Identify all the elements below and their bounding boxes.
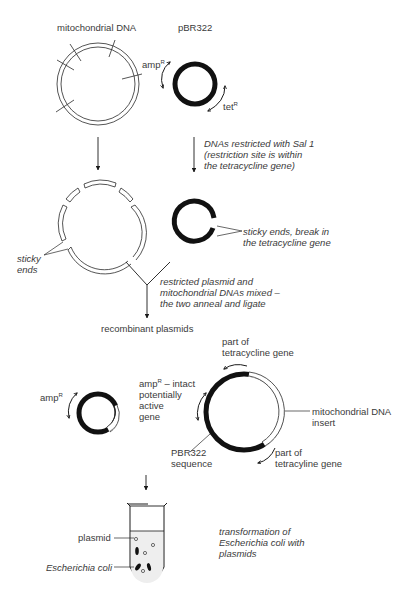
ligation-caption: restricted plasmid and mitochondrial DNA… bbox=[160, 276, 280, 309]
large-recombinant-plasmid bbox=[206, 372, 284, 450]
sticky-ends-line2: ends bbox=[17, 264, 41, 275]
amp-intact-line1: ampR – intact bbox=[139, 378, 195, 389]
test-tube bbox=[127, 503, 167, 583]
small-ampR-sup: R bbox=[58, 392, 62, 398]
pbr-seq-label: PBR322 sequence bbox=[171, 447, 212, 469]
tet-part-top-arrow-icon bbox=[224, 365, 247, 369]
tet-part-bottom-arrow-icon bbox=[258, 448, 275, 463]
amp-intact-label: ampR – intact potentially active gene bbox=[139, 378, 195, 422]
pbr-seq-line2: sequence bbox=[171, 458, 212, 469]
ampR-text: amp bbox=[142, 59, 160, 70]
tetR-sup: R bbox=[234, 101, 238, 107]
tet-part-bottom-line2: tetracyline gene bbox=[275, 458, 342, 469]
amp-intact-line4: gene bbox=[139, 411, 195, 422]
tet-part-top-line1: part of bbox=[222, 336, 294, 347]
sticky-ends-pointer bbox=[44, 242, 68, 255]
ligation-caption-line2: mitochondrial DNAs mixed – bbox=[160, 287, 280, 298]
small-recombinant-plasmid bbox=[79, 394, 119, 432]
small-ampR-text: amp bbox=[40, 392, 58, 403]
plasmid-break-line2: the tetracycline gene bbox=[243, 237, 331, 248]
ecoli-label: Escherichia coli bbox=[46, 562, 112, 573]
transformation-caption: transformation of Escherichia coli with … bbox=[219, 526, 305, 559]
restriction-caption: DNAs restricted with Sal 1 (restriction … bbox=[204, 138, 314, 171]
plasmid-label: plasmid bbox=[78, 532, 111, 543]
plasmid-break-line1: sticky ends, break in bbox=[243, 226, 331, 237]
transformation-caption-line2: Escherichia coli with bbox=[219, 537, 305, 548]
ampR-sup: R bbox=[160, 59, 164, 65]
mito-dna-circle bbox=[56, 40, 142, 125]
insert-line2: insert bbox=[312, 417, 391, 428]
recombinant-plasmids-label: recombinant plasmids bbox=[101, 323, 193, 334]
tet-part-bottom-line1: part of bbox=[275, 447, 342, 458]
restricted-pbr322 bbox=[174, 201, 214, 241]
restriction-caption-line1: DNAs restricted with Sal 1 bbox=[204, 138, 314, 149]
sticky-ends-line1: sticky bbox=[17, 253, 41, 264]
amp-intact-line2: potentially bbox=[139, 389, 195, 400]
plasmid-break-pointer bbox=[217, 226, 242, 236]
amp-intact-line3: active bbox=[139, 400, 195, 411]
restriction-caption-line3: the tetracycline gene) bbox=[204, 160, 314, 171]
insert-label: mitochondrial DNA insert bbox=[312, 406, 391, 428]
tet-part-bottom-label: part of tetracyline gene bbox=[275, 447, 342, 469]
transformation-caption-line3: plasmids bbox=[219, 548, 305, 559]
tet-part-top-label: part of tetracycline gene bbox=[222, 336, 294, 358]
tet-part-top-line2: tetracycline gene bbox=[222, 347, 294, 358]
insert-line1: mitochondrial DNA bbox=[312, 406, 391, 417]
small-ampR-arrow-icon bbox=[68, 393, 77, 418]
pbr322-plasmid bbox=[175, 64, 215, 104]
plasmid-break-label: sticky ends, break in the tetracycline g… bbox=[243, 226, 331, 248]
tetR-text: tet bbox=[223, 101, 234, 112]
sticky-ends-label: sticky ends bbox=[17, 253, 41, 275]
ligation-caption-line1: restricted plasmid and bbox=[160, 276, 280, 287]
tetR-label: tetR bbox=[223, 101, 238, 112]
ampR-label: ampR bbox=[142, 59, 165, 70]
restriction-caption-line2: (restriction site is within bbox=[204, 149, 314, 160]
pbr-seq-line1: PBR322 bbox=[171, 447, 212, 458]
mito-dna-fragments bbox=[58, 180, 146, 274]
pbr322-label: pBR322 bbox=[178, 22, 212, 33]
mito-dna-label: mitochondrial DNA bbox=[57, 22, 136, 33]
small-ampR-label: ampR bbox=[40, 392, 63, 403]
ligation-caption-line3: the two anneal and ligate bbox=[160, 298, 280, 309]
transformation-caption-line1: transformation of bbox=[219, 526, 305, 537]
